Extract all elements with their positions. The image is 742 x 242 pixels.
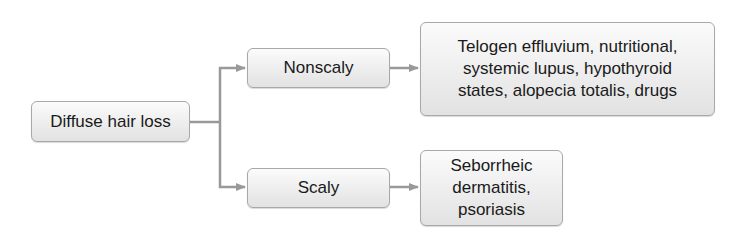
node-label: Nonscaly — [284, 57, 354, 79]
node-line: states, alopecia totalis, drugs — [458, 80, 677, 102]
node-label: Scaly — [298, 177, 340, 199]
node-line: Seborrheic — [450, 155, 532, 177]
node-scaly: Scaly — [247, 168, 390, 208]
node-label: Diffuse hair loss — [50, 111, 171, 133]
node-nonscaly-causes: Telogen effluvium, nutritional, systemic… — [420, 22, 715, 116]
node-line: systemic lupus, hypothyroid — [463, 58, 672, 80]
edge-root-to-scaly — [220, 122, 245, 187]
edge-root-to-nonscaly — [220, 68, 245, 122]
node-line: dermatitis, — [452, 177, 530, 199]
node-scaly-causes: Seborrheic dermatitis, psoriasis — [420, 150, 563, 226]
node-line: psoriasis — [458, 199, 525, 221]
node-diffuse-hair-loss: Diffuse hair loss — [31, 101, 190, 142]
node-nonscaly: Nonscaly — [247, 48, 390, 88]
node-line: Telogen effluvium, nutritional, — [458, 36, 678, 58]
